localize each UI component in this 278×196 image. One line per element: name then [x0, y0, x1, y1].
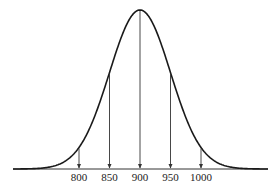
- arrow-group: [77, 11, 203, 169]
- arrowhead-icon: [77, 164, 81, 169]
- normal-distribution-chart: 8008509009501000: [0, 0, 278, 196]
- arrowhead-icon: [108, 164, 112, 169]
- bell-curve: [13, 10, 268, 169]
- arrowhead-icon: [138, 164, 142, 169]
- arrowhead-icon: [199, 164, 203, 169]
- x-tick-label: 900: [132, 171, 149, 183]
- arrowhead-icon: [169, 164, 173, 169]
- bell-curve-plot: [0, 0, 278, 196]
- x-tick-label: 1000: [190, 171, 212, 183]
- x-tick-label: 800: [71, 171, 88, 183]
- x-tick-label: 950: [162, 171, 179, 183]
- x-tick-label: 850: [101, 171, 118, 183]
